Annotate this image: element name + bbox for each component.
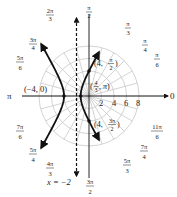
angle-label-pi-over-2: π2 xyxy=(86,4,92,19)
angle-label-5pi-over-3: 5π3 xyxy=(123,157,131,174)
vertex-left-point xyxy=(62,94,66,98)
svg-text:2π: 2π xyxy=(47,7,54,14)
point-4-3pi-over-2 xyxy=(87,119,91,123)
svg-text:4: 4 xyxy=(31,44,35,51)
svg-text:2: 2 xyxy=(111,126,114,132)
angle-label-11pi-over-6: 11π6 xyxy=(151,123,163,140)
angle-label-7pi-over-4: 7π4 xyxy=(140,143,148,160)
svg-text:4: 4 xyxy=(31,156,35,163)
svg-text:7π: 7π xyxy=(17,123,24,130)
svg-text:3π: 3π xyxy=(109,118,115,124)
svg-text:3: 3 xyxy=(126,29,129,36)
point-label-neg4-0: (−4, 0) xyxy=(24,84,47,94)
polar-hyperbola-plot: 2 4 6 8 0 π π2 2π3 3π4 5π6 π3 π4 xyxy=(0,0,177,197)
radial-label-2: 2 xyxy=(99,98,103,108)
radial-tick-labels: 2 4 6 8 xyxy=(99,98,140,108)
svg-text:, π): , π) xyxy=(99,82,110,91)
svg-text:): ) xyxy=(115,59,118,68)
svg-text:6: 6 xyxy=(18,133,22,140)
svg-text:π: π xyxy=(109,57,112,63)
svg-text:7π: 7π xyxy=(141,143,148,150)
svg-text:π: π xyxy=(155,51,159,58)
svg-text:3: 3 xyxy=(48,170,51,177)
svg-text:4: 4 xyxy=(142,153,146,160)
angle-label-pi: π xyxy=(7,91,12,101)
svg-text:5π: 5π xyxy=(30,146,37,153)
svg-text:(4,: (4, xyxy=(94,59,103,68)
angle-label-5pi-over-6: 5π6 xyxy=(16,54,24,71)
angle-label-0: 0 xyxy=(170,91,175,101)
svg-text:3: 3 xyxy=(125,167,128,174)
vertex-right-point xyxy=(79,94,83,98)
angle-label-pi-over-3: π3 xyxy=(125,20,131,36)
angle-label-3pi-over-2: 3π2 xyxy=(86,178,94,195)
svg-text:): ) xyxy=(117,120,120,129)
svg-text:4: 4 xyxy=(95,80,98,86)
svg-text:6: 6 xyxy=(155,133,159,140)
svg-text:2: 2 xyxy=(110,65,113,71)
svg-text:3π: 3π xyxy=(30,36,37,43)
svg-text:4: 4 xyxy=(143,46,147,53)
svg-text:π: π xyxy=(87,4,91,11)
angle-label-pi-over-6: π6 xyxy=(154,51,160,68)
point-4-pi-over-2 xyxy=(87,69,91,73)
svg-text:5π: 5π xyxy=(17,54,24,61)
radial-label-8: 8 xyxy=(136,98,140,108)
svg-text:π: π xyxy=(126,20,130,27)
angle-fraction-labels: π2 2π3 3π4 5π6 π3 π4 π6 7π6 5π4 xyxy=(16,4,163,195)
svg-text:6: 6 xyxy=(155,61,159,68)
svg-text:4π: 4π xyxy=(47,160,54,167)
svg-text:2: 2 xyxy=(88,188,91,195)
svg-text:2: 2 xyxy=(87,12,90,19)
svg-text:3π: 3π xyxy=(87,178,94,185)
angle-label-5pi-over-4: 5π4 xyxy=(29,146,37,163)
svg-text:3: 3 xyxy=(48,15,51,22)
angle-label-7pi-over-6: 7π6 xyxy=(16,123,24,140)
svg-text:3: 3 xyxy=(95,87,98,93)
svg-text:11π: 11π xyxy=(152,123,162,130)
directrix-label: x = −2 xyxy=(46,177,71,187)
svg-text:(4,: (4, xyxy=(94,120,103,129)
angle-label-pi-over-4: π4 xyxy=(142,37,148,53)
svg-text:5π: 5π xyxy=(124,157,131,164)
svg-text:π: π xyxy=(143,37,147,44)
svg-text:6: 6 xyxy=(18,64,22,71)
radial-label-6: 6 xyxy=(124,98,128,108)
angle-label-3pi-over-4: 3π4 xyxy=(29,36,37,51)
angle-label-2pi-over-3: 2π3 xyxy=(46,7,54,22)
svg-text:(: ( xyxy=(90,82,93,91)
angle-label-4pi-over-3: 4π3 xyxy=(46,160,54,177)
